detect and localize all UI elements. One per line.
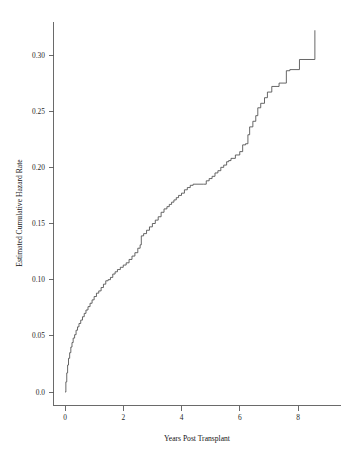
x-tick-label: 0 [63, 413, 67, 422]
y-axis-title: Estimated Cumulative Hazard Rate [15, 159, 24, 267]
y-tick-label: 0.15 [32, 219, 45, 228]
plot-canvas: 0.00.050.100.150.200.250.30 02468 Years … [0, 0, 354, 465]
x-tick-label: 2 [121, 413, 125, 422]
y-tick-label: 0.30 [32, 51, 45, 60]
y-tick-label: 0.0 [36, 388, 46, 397]
hazard-chart: 0.00.050.100.150.200.250.30 02468 Years … [0, 0, 354, 465]
y-tick-label: 0.10 [32, 275, 45, 284]
x-tick-group: 02468 [63, 406, 300, 423]
x-tick-label: 6 [238, 413, 242, 422]
y-tick-label: 0.05 [32, 331, 45, 340]
x-tick-label: 4 [180, 413, 184, 422]
y-tick-group: 0.00.050.100.150.200.250.30 [32, 51, 53, 397]
cumulative-hazard-curve [65, 30, 315, 392]
x-tick-label: 8 [296, 413, 300, 422]
y-tick-label: 0.20 [32, 163, 45, 172]
x-axis-title: Years Post Transplant [164, 434, 231, 443]
y-tick-label: 0.25 [32, 107, 45, 116]
